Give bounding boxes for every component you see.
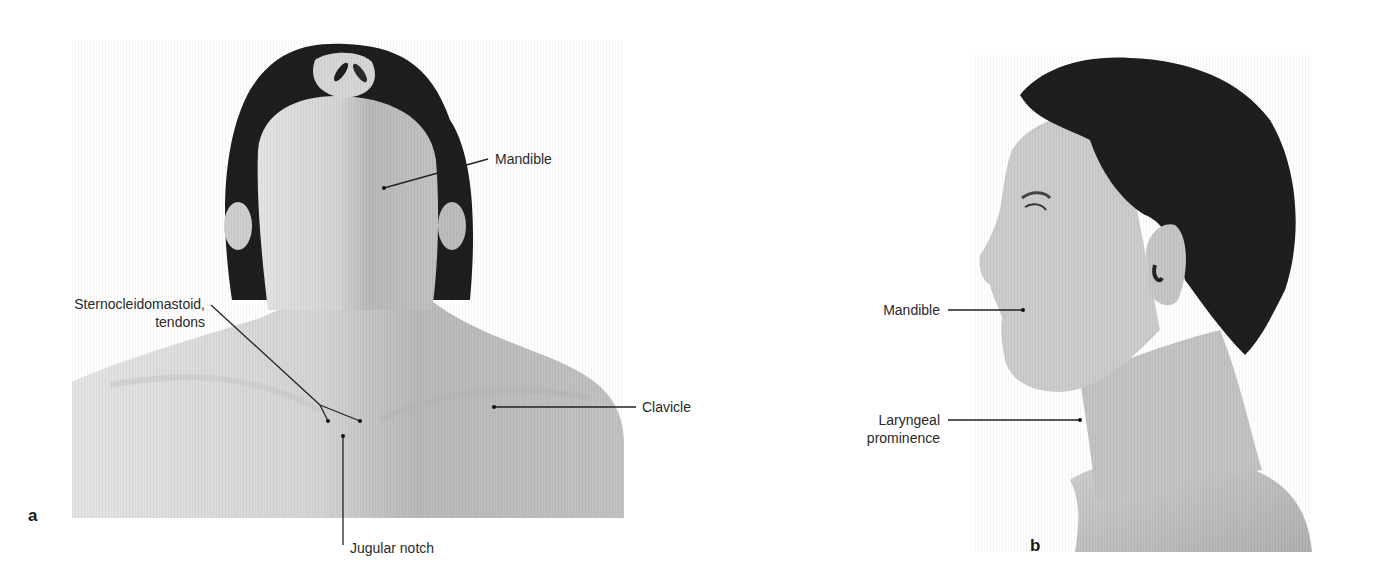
figure-illustration bbox=[0, 0, 1382, 581]
panel-b-illustration bbox=[975, 55, 1312, 552]
label-jugular-notch: Jugular notch bbox=[350, 539, 434, 557]
label-clavicle: Clavicle bbox=[642, 398, 691, 416]
panel-letter-a: a bbox=[28, 506, 37, 526]
label-laryngeal-line1: Laryngeal bbox=[820, 411, 940, 429]
label-sternocleidomastoid: Sternocleidomastoid, tendons bbox=[40, 295, 205, 331]
label-mandible-b: Mandible bbox=[840, 301, 940, 319]
label-laryngeal-prominence: Laryngeal prominence bbox=[820, 411, 940, 447]
label-sternocleidomastoid-line2: tendons bbox=[40, 313, 205, 331]
label-laryngeal-line2: prominence bbox=[820, 429, 940, 447]
anatomy-figure: Mandible Sternocleidomastoid, tendons Cl… bbox=[0, 0, 1382, 581]
label-sternocleidomastoid-line1: Sternocleidomastoid, bbox=[40, 295, 205, 313]
label-mandible-a: Mandible bbox=[495, 150, 552, 168]
panel-letter-b: b bbox=[1030, 536, 1040, 556]
panel-a-illustration bbox=[72, 40, 624, 518]
